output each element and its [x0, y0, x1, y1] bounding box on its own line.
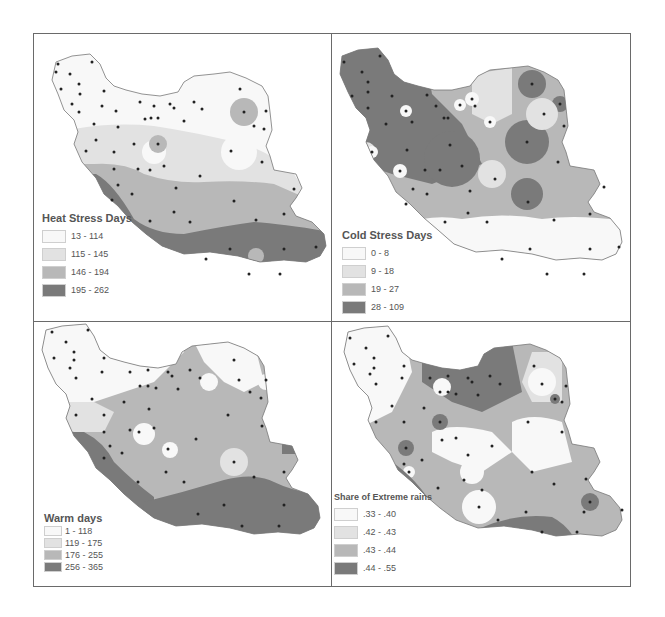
legend-swatch — [42, 284, 66, 297]
legend-label: .43 - .44 — [363, 545, 396, 555]
panel-share-of-extreme-rains: Share of Extreme rains .33 - .40 .42 - .… — [332, 322, 631, 587]
legend-item: 119 - 175 — [44, 537, 103, 549]
legend-item: 115 - 145 — [42, 245, 132, 263]
legend-swatch — [342, 247, 366, 260]
legend-extreme-rains: Share of Extreme rains .33 - .40 .42 - .… — [334, 492, 432, 577]
legend-warm-days: Warm days 1 - 118 119 - 175 176 - 255 25… — [44, 512, 103, 573]
legend-label: 256 - 365 — [65, 562, 103, 572]
legend-swatch — [334, 544, 358, 557]
legend-label: .44 - .55 — [363, 563, 396, 573]
legend-item: .42 - .43 — [334, 523, 432, 541]
legend-swatch — [342, 301, 366, 314]
legend-item: 13 - 114 — [42, 227, 132, 245]
legend-label: 176 - 255 — [65, 550, 103, 560]
legend-label: 119 - 175 — [65, 538, 102, 548]
legend-swatch — [42, 230, 66, 243]
legend-swatch — [342, 283, 366, 296]
legend-swatch — [42, 248, 66, 261]
legend-label: 28 - 109 — [371, 302, 404, 312]
legend-item: 146 - 194 — [42, 263, 132, 281]
legend-item: .44 - .55 — [334, 559, 432, 577]
legend-swatch — [334, 562, 358, 575]
legend-swatch — [44, 538, 62, 548]
legend-swatch — [334, 526, 358, 539]
legend-swatch — [342, 265, 366, 278]
legend-swatch — [44, 550, 62, 560]
legend-heat-stress: Heat Stress Days 13 - 114 115 - 145 146 … — [42, 212, 132, 299]
figure-frame: Heat Stress Days 13 - 114 115 - 145 146 … — [33, 33, 631, 587]
legend-title: Share of Extreme rains — [334, 492, 432, 502]
legend-label: .33 - .40 — [363, 509, 396, 519]
legend-item: 9 - 18 — [342, 262, 432, 280]
legend-label: 13 - 114 — [71, 231, 103, 241]
legend-item: .43 - .44 — [334, 541, 432, 559]
legend-item: 28 - 109 — [342, 298, 432, 316]
legend-item: 176 - 255 — [44, 549, 103, 561]
legend-title: Warm days — [44, 512, 103, 524]
legend-title: Heat Stress Days — [42, 212, 132, 224]
legend-swatch — [42, 266, 66, 279]
legend-swatch — [44, 526, 62, 536]
legend-item: 0 - 8 — [342, 244, 432, 262]
legend-item: 195 - 262 — [42, 281, 132, 299]
legend-item: 1 - 118 — [44, 525, 103, 537]
legend-label: 115 - 145 — [71, 249, 108, 259]
legend-label: .42 - .43 — [363, 527, 396, 537]
legend-label: 146 - 194 — [71, 267, 109, 277]
legend-swatch — [334, 508, 358, 521]
legend-label: 9 - 18 — [371, 266, 394, 276]
legend-item: 19 - 27 — [342, 280, 432, 298]
legend-cold-stress: Cold Stress Days 0 - 8 9 - 18 19 - 27 28… — [342, 229, 432, 316]
legend-label: 19 - 27 — [371, 284, 399, 294]
panel-cold-stress-days: Cold Stress Days 0 - 8 9 - 18 19 - 27 28… — [332, 34, 631, 321]
legend-item: .33 - .40 — [334, 505, 432, 523]
legend-swatch — [44, 562, 62, 572]
panel-warm-days: Warm days 1 - 118 119 - 175 176 - 255 25… — [34, 322, 331, 587]
legend-item: 256 - 365 — [44, 561, 103, 573]
panel-heat-stress-days: Heat Stress Days 13 - 114 115 - 145 146 … — [34, 34, 331, 321]
legend-label: 0 - 8 — [371, 248, 389, 258]
legend-title: Cold Stress Days — [342, 229, 432, 241]
legend-label: 1 - 118 — [65, 526, 92, 536]
legend-label: 195 - 262 — [71, 285, 109, 295]
